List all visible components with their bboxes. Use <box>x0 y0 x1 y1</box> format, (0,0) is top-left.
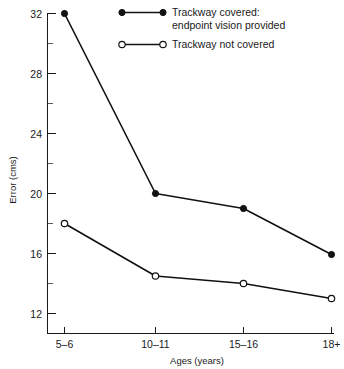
x-tick-label: 15–16 <box>229 338 258 350</box>
y-axis-title: Error (cms) <box>7 156 18 204</box>
data-point <box>61 10 67 16</box>
x-tick-label: 5–6 <box>56 338 74 350</box>
data-point <box>328 295 334 301</box>
y-tick-label: 20 <box>30 188 42 200</box>
legend-item-not-covered: Trackway not covered <box>119 38 275 50</box>
legend: Trackway covered: endpoint vision provid… <box>119 6 286 50</box>
axis-group <box>48 13 334 334</box>
data-point <box>152 273 158 279</box>
y-tick-labels: 32 28 24 20 16 12 <box>30 8 42 320</box>
legend-item-covered: Trackway covered: endpoint vision provid… <box>119 6 286 31</box>
legend-label-covered-line2: endpoint vision provided <box>172 19 285 31</box>
data-point <box>240 280 246 286</box>
x-axis-title: Ages (years) <box>170 355 224 366</box>
legend-marker-filled-circle-icon <box>160 9 166 15</box>
chart-canvas: 32 28 24 20 16 12 5–6 10–11 15–16 18+ Ag… <box>0 0 344 369</box>
data-point <box>328 251 334 257</box>
y-tick-label: 24 <box>30 128 42 140</box>
line-chart: 32 28 24 20 16 12 5–6 10–11 15–16 18+ Ag… <box>0 0 344 369</box>
legend-label-not-covered: Trackway not covered <box>172 38 274 50</box>
x-tick-label: 10–11 <box>141 338 170 350</box>
x-axis-ticks <box>65 327 332 334</box>
y-tick-label: 32 <box>30 8 42 20</box>
y-tick-label: 28 <box>30 68 42 80</box>
x-tick-label: 18+ <box>323 338 341 350</box>
y-tick-label: 12 <box>30 308 42 320</box>
series-line-not-covered <box>65 224 332 299</box>
legend-marker-open-circle-icon <box>160 41 166 47</box>
legend-marker-filled-circle-icon <box>119 9 125 15</box>
x-tick-labels: 5–6 10–11 15–16 18+ <box>56 338 341 350</box>
legend-label-covered-line1: Trackway covered: <box>172 6 260 18</box>
legend-marker-open-circle-icon <box>119 41 125 47</box>
data-point <box>240 205 246 211</box>
data-point <box>61 220 67 226</box>
series-trackway-not-covered <box>61 220 334 301</box>
data-point <box>152 190 158 196</box>
y-tick-label: 16 <box>30 248 42 260</box>
y-axis-minor-ticks <box>48 44 53 284</box>
